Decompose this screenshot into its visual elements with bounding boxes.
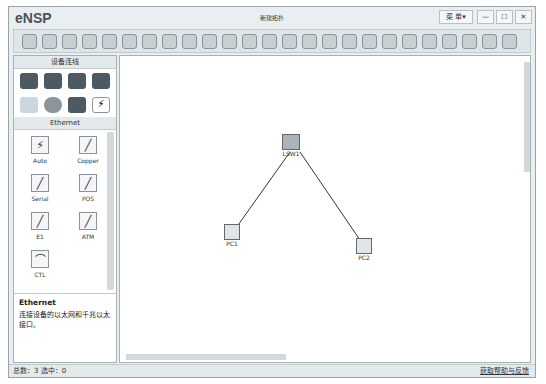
toolbar-button[interactable] [382,34,397,49]
toolbar-button[interactable] [462,34,477,49]
cable-icon[interactable]: ⚡ [92,97,110,113]
node-pc1[interactable]: PC1 [224,224,240,247]
toolbar-button[interactable] [202,34,217,49]
cable-e1[interactable]: ╱E1 [16,212,64,240]
toolbar-button[interactable] [402,34,417,49]
toolbar-button[interactable] [22,34,37,49]
status-count: 总数：3 选中：0 [13,365,66,378]
firewall-icon[interactable] [92,73,110,89]
topology-canvas[interactable]: LSW1 PC1 PC2 [119,55,531,363]
toolbar-button[interactable] [182,34,197,49]
link-lines [120,56,532,364]
toolbar-button[interactable] [222,34,237,49]
cable-atm[interactable]: ╱ATM [64,212,112,240]
toolbar-button[interactable] [122,34,137,49]
switch-icon[interactable] [44,73,62,89]
help-feedback-link[interactable]: 获取帮助与反馈 [480,365,529,378]
toolbar-button[interactable] [502,34,517,49]
toolbar-button[interactable] [422,34,437,49]
cable-icon: ╱ [31,174,49,192]
toolbar-button[interactable] [42,34,57,49]
info-text: 连接设备的以太网和千兆以太接口。 [19,311,110,329]
cable-ctl[interactable]: ⌒CTL [16,250,64,278]
router-icon[interactable] [20,73,38,89]
cable-icon: ╱ [79,212,97,230]
cable-icon: ╱ [79,136,97,154]
cable-icon: ⌒ [31,250,49,268]
toolbar-button[interactable] [82,34,97,49]
wlan-icon[interactable] [68,73,86,89]
maximize-button[interactable]: ☐ [496,10,513,24]
cable-serial[interactable]: ╱Serial [16,174,64,202]
cloud-icon[interactable] [44,97,62,113]
toolbar-button[interactable] [362,34,377,49]
cable-icon: ⚡ [31,136,49,154]
toolbar [13,29,531,53]
toolbar-button[interactable] [262,34,277,49]
close-button[interactable]: ✕ [515,10,532,24]
device-panel: 设备连线 ⚡ Ethernet ⚡Auto╱Copper╱Serial╱POS╱… [13,55,117,363]
ensp-window: eNSP 新建拓扑 菜 单▾ — ☐ ✕ 设备连线 ⚡ Ethernet ⚡Au… [8,6,536,378]
menu-button[interactable]: 菜 单▾ [439,10,473,24]
toolbar-button[interactable] [142,34,157,49]
info-box: Ethernet 连接设备的以太网和千兆以太接口。 [14,294,116,333]
toolbar-button[interactable] [302,34,317,49]
minimize-button[interactable]: — [477,10,494,24]
toolbar-button[interactable] [62,34,77,49]
toolbar-button[interactable] [442,34,457,49]
toolbar-button[interactable] [322,34,337,49]
cable-list: ⚡Auto╱Copper╱Serial╱POS╱E1╱ATM⌒CTL [14,130,116,294]
cable-icon: ╱ [79,174,97,192]
toolbar-button[interactable] [242,34,257,49]
cable-copper[interactable]: ╱Copper [64,136,112,164]
toolbar-button[interactable] [282,34,297,49]
toolbar-button[interactable] [342,34,357,49]
pc-icon[interactable] [20,97,38,113]
pc-icon [356,238,372,254]
node-lsw1[interactable]: LSW1 [282,134,300,157]
switch-icon [282,134,300,150]
other-device-icon[interactable] [68,97,86,113]
status-bar: 总数：3 选中：0 获取帮助与反馈 [9,364,535,377]
device-section-title: 设备连线 [14,56,116,69]
info-title: Ethernet [19,298,111,307]
node-pc2[interactable]: PC2 [356,238,372,261]
toolbar-button[interactable] [482,34,497,49]
toolbar-button[interactable] [102,34,117,49]
pc-icon [224,224,240,240]
title-bar: eNSP 新建拓扑 菜 单▾ — ☐ ✕ [9,7,535,29]
toolbar-button[interactable] [162,34,177,49]
cable-auto[interactable]: ⚡Auto [16,136,64,164]
cable-pos[interactable]: ╱POS [64,174,112,202]
cable-icon: ╱ [31,212,49,230]
cable-category: Ethernet [14,117,116,130]
